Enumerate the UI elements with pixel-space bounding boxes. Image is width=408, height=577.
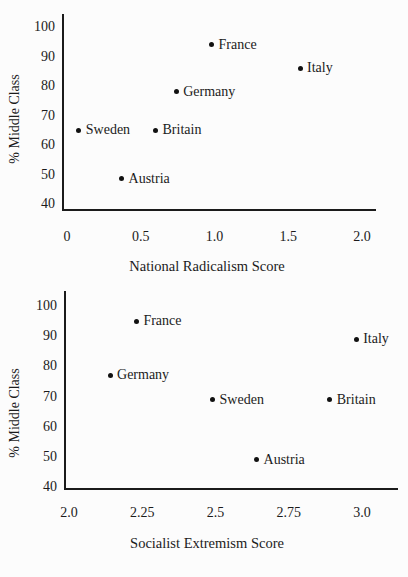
x-tick-label: 3.0 <box>340 505 384 521</box>
data-point-label: Germany <box>183 83 235 101</box>
data-point-label: Britain <box>163 121 202 139</box>
scatter-chart-national-radicalism: % Middle Class 100908070605040 00.51.01.… <box>0 0 408 288</box>
x-axis-title: Socialist Extremism Score <box>7 535 407 552</box>
x-tick-label: 2.75 <box>267 505 311 521</box>
y-tick-label: 40 <box>13 478 57 496</box>
data-point <box>174 89 179 94</box>
data-point-label: Britain <box>337 391 376 409</box>
y-tick-label: 100 <box>13 297 57 315</box>
x-tick-label: 2.5 <box>194 505 238 521</box>
x-tick-label: 0 <box>45 229 89 245</box>
data-point <box>298 66 303 71</box>
data-point <box>119 176 124 181</box>
y-tick-label: 50 <box>13 448 57 466</box>
y-tick-label: 90 <box>13 327 57 345</box>
y-tick-label: 70 <box>13 388 57 406</box>
x-tick-label: 2.0 <box>47 505 91 521</box>
data-point <box>153 128 158 133</box>
y-tick-label: 70 <box>11 107 55 125</box>
y-tick-label: 80 <box>11 77 55 95</box>
data-point-label: Austria <box>264 451 305 469</box>
data-point-label: Italy <box>363 330 389 348</box>
x-tick-label: 2.0 <box>340 229 384 245</box>
data-point-label: Austria <box>129 170 170 188</box>
data-point-label: Sweden <box>220 391 264 409</box>
data-point <box>134 319 139 324</box>
y-tick-label: 80 <box>13 357 57 375</box>
scatter-chart-socialist-extremism: % Middle Class 100908070605040 2.02.252.… <box>0 288 408 577</box>
y-tick-label: 100 <box>11 18 55 36</box>
data-point <box>76 128 81 133</box>
y-axis-line <box>64 291 66 490</box>
y-tick-label: 50 <box>11 166 55 184</box>
y-axis-line <box>62 14 64 211</box>
y-tick-label: 40 <box>11 195 55 213</box>
data-point <box>210 397 215 402</box>
x-tick-label: 1.5 <box>266 229 310 245</box>
x-axis-line <box>62 209 376 211</box>
y-axis-label: % Middle Class <box>7 368 23 457</box>
x-tick-label: 0.5 <box>119 229 163 245</box>
data-point-label: Germany <box>117 366 169 384</box>
data-point <box>254 457 259 462</box>
x-axis-title: National Radicalism Score <box>7 258 407 275</box>
y-tick-label: 60 <box>11 136 55 154</box>
y-tick-label: 60 <box>13 418 57 436</box>
data-point <box>108 373 113 378</box>
data-point <box>354 337 359 342</box>
data-point-label: Sweden <box>86 121 130 139</box>
figure-two-panel-scatter: % Middle Class 100908070605040 00.51.01.… <box>0 0 408 577</box>
data-point <box>327 397 332 402</box>
data-point <box>209 42 214 47</box>
data-point-label: Italy <box>307 59 333 77</box>
data-point-label: France <box>219 36 257 54</box>
data-point-label: France <box>143 312 181 330</box>
y-tick-label: 90 <box>11 48 55 66</box>
x-tick-label: 1.0 <box>193 229 237 245</box>
x-axis-line <box>64 488 398 490</box>
x-tick-label: 2.25 <box>120 505 164 521</box>
